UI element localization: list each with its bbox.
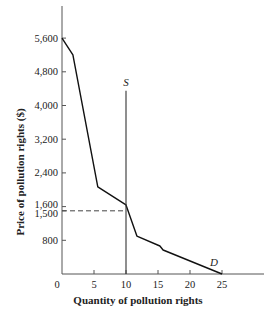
x-tick-label: 25 xyxy=(217,279,228,290)
series xyxy=(62,38,222,274)
y-tick-label: 3,200 xyxy=(34,134,58,145)
x-tick-label: 5 xyxy=(91,279,96,290)
x-tick-label: 0 xyxy=(54,279,59,290)
y-tick-label: 2,400 xyxy=(34,167,58,178)
y-tick-label: 1,600 xyxy=(34,199,58,210)
x-tick-label: 20 xyxy=(185,279,196,290)
ticks: 05101520258001,5001,6002,4003,2004,0004,… xyxy=(34,33,227,290)
x-axis-title: Quantity of pollution rights xyxy=(73,294,203,306)
y-axis-title: Price of pollution rights ($) xyxy=(14,108,27,235)
y-tick-label: 4,000 xyxy=(34,100,58,111)
y-tick-label: 5,600 xyxy=(34,33,58,44)
supply-label: S xyxy=(123,76,129,88)
demand-curve xyxy=(62,38,222,274)
x-tick-label: 15 xyxy=(153,279,164,290)
y-tick-label: 800 xyxy=(42,235,58,246)
demand-label: D xyxy=(209,256,218,268)
y-tick-label: 4,800 xyxy=(34,66,58,77)
x-tick-label: 10 xyxy=(121,279,132,290)
axes xyxy=(62,6,264,274)
pollution-rights-chart: 05101520258001,5001,6002,4003,2004,0004,… xyxy=(0,0,268,318)
